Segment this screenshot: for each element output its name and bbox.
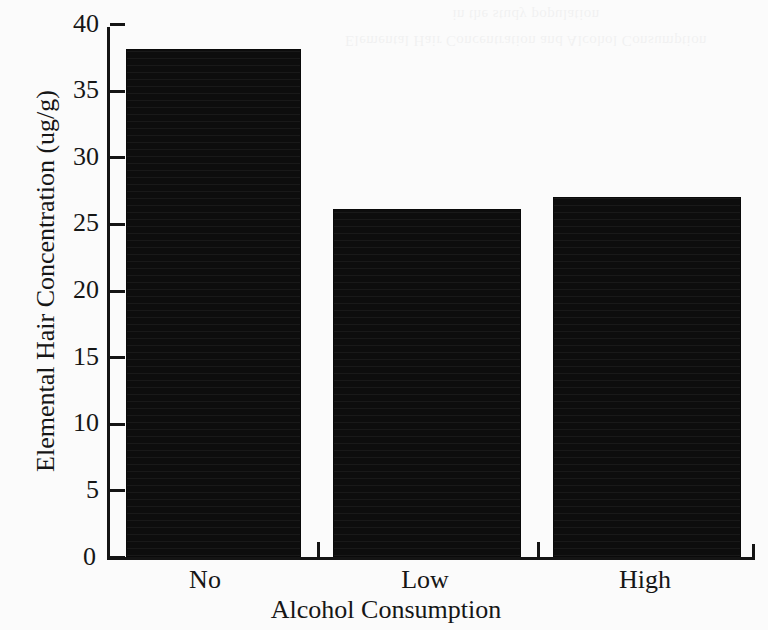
- bar-no: [126, 49, 301, 557]
- y-tick-label-15: 15: [73, 344, 99, 370]
- plot-area: 0510152025303540: [107, 27, 755, 560]
- y-tick-35: 35: [110, 90, 125, 93]
- x-axis-title-text: Alcohol Consumption: [271, 597, 501, 623]
- x-axis-line: [107, 557, 755, 560]
- y-axis-title: Elemental Hair Concentration (ug/g): [33, 21, 59, 541]
- y-tick-20: 20: [110, 290, 125, 293]
- y-tick-label-5: 5: [86, 477, 99, 503]
- y-tick-40: 40: [110, 23, 125, 26]
- scan-bleed-line-2: in the study population: [300, 2, 752, 28]
- y-tick-label-35: 35: [73, 78, 99, 104]
- x-axis-end-tick: [752, 544, 755, 560]
- y-tick-15: 15: [110, 356, 125, 359]
- y-tick-label-20: 20: [73, 277, 99, 303]
- y-tick-label-25: 25: [73, 211, 99, 237]
- y-tick-label-30: 30: [73, 144, 99, 170]
- y-tick-label-0: 0: [83, 544, 96, 570]
- x-axis-title: Alcohol Consumption: [0, 597, 768, 623]
- bar-high: [553, 197, 741, 557]
- y-tick-0: 0: [110, 556, 125, 559]
- y-tick-25: 25: [110, 223, 125, 226]
- y-axis-line: [107, 27, 110, 560]
- bar-chart-figure: Elemental Hair Concentration and Alcohol…: [0, 0, 768, 630]
- x-tick-label-no: No: [189, 567, 221, 593]
- y-tick-label-10: 10: [73, 411, 99, 437]
- x-tick-label-low: Low: [401, 567, 449, 593]
- y-tick-label-40: 40: [73, 11, 99, 37]
- x-tick-1: [317, 542, 320, 557]
- y-tick-5: 5: [110, 489, 125, 492]
- y-tick-30: 30: [110, 156, 125, 159]
- x-tick-2: [537, 542, 540, 557]
- y-tick-10: 10: [110, 423, 125, 426]
- x-tick-label-high: High: [619, 567, 671, 593]
- bar-low: [333, 209, 521, 557]
